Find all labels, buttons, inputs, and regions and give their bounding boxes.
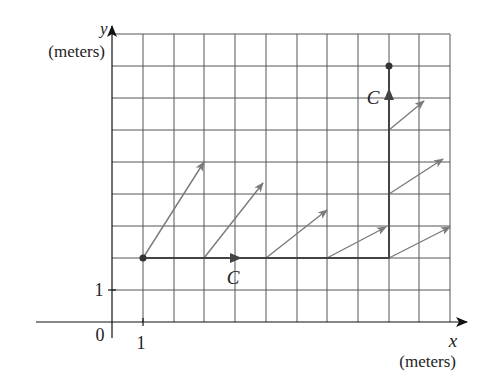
diagram-canvas: y (meters) x (meters) 0 1 1 C C — [0, 0, 481, 387]
y-tick-label: 1 — [95, 280, 104, 300]
x-axis-unit: (meters) — [399, 352, 456, 371]
curve-label-vertical: C — [367, 87, 380, 108]
curve-label-horizontal: C — [227, 267, 240, 288]
curve-direction-arrow-vertical — [384, 88, 394, 100]
vector-arrow — [327, 227, 386, 258]
x-tick-label: 1 — [137, 333, 146, 353]
vector-arrow — [389, 159, 443, 194]
y-axis-unit: (meters) — [48, 42, 105, 61]
grid — [112, 34, 450, 322]
curve-direction-arrow-horizontal — [230, 253, 242, 263]
curve-end-point — [386, 63, 393, 70]
x-axis-label: x — [448, 330, 458, 351]
curve-start-point — [140, 255, 147, 262]
origin-label: 0 — [96, 325, 105, 345]
y-axis-label: y — [98, 19, 108, 38]
